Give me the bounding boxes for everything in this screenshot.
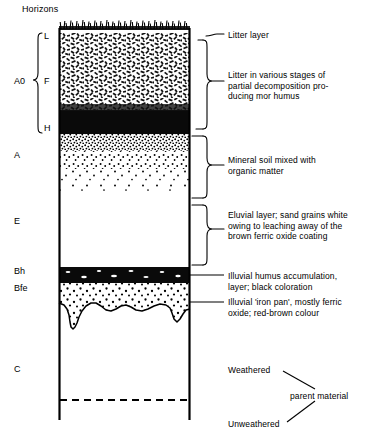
- horizon-A-fill: [59, 134, 190, 201]
- leader-weathered: [283, 371, 315, 389]
- leader-unweathered: [287, 401, 315, 422]
- label-parent-material: parent material: [290, 391, 348, 402]
- horizon-label-C: C: [14, 364, 21, 375]
- description-illuvial-iron-pan: Illuvial 'iron pan', mostly ferric oxide…: [228, 297, 342, 318]
- description-illuvial-humus: Illuvial humus accumulation, layer; blac…: [228, 271, 337, 292]
- soil-profile-figure: Horizons L F H A0 A E Bh Bfe C Litter la…: [0, 0, 376, 441]
- description-litter-layer: Litter layer: [228, 30, 269, 41]
- horizon-label-L: L: [44, 31, 49, 42]
- leader-litter-layer: [206, 34, 224, 36]
- horizon-Bh-fill: [59, 267, 190, 283]
- horizon-label-F: F: [44, 76, 50, 87]
- horizon-label-A0: A0: [14, 76, 25, 87]
- label-unweathered: Unweathered: [228, 419, 280, 430]
- page-title: Horizons: [22, 4, 58, 15]
- brace-F-description: [196, 40, 224, 129]
- horizon-label-Bfe: Bfe: [14, 283, 28, 294]
- brace-E-description: [192, 205, 224, 265]
- label-weathered: Weathered: [228, 365, 270, 376]
- horizon-H-fill: [59, 110, 190, 134]
- description-eluvial-layer: Eluvial layer; sand grains white owing t…: [228, 210, 348, 242]
- horizon-F-fill: [59, 33, 190, 113]
- description-mineral-soil: Mineral soil mixed with organic matter: [228, 155, 316, 176]
- horizon-label-E: E: [14, 216, 20, 227]
- brace-A-description: [192, 136, 224, 198]
- horizon-E-fill: [59, 201, 190, 267]
- description-litter-stages: Litter in various stages of partial deco…: [228, 70, 328, 102]
- horizon-label-Bh: Bh: [14, 266, 25, 277]
- horizon-label-A: A: [14, 150, 20, 161]
- horizon-label-H: H: [44, 123, 51, 134]
- brace-A0: [33, 33, 42, 133]
